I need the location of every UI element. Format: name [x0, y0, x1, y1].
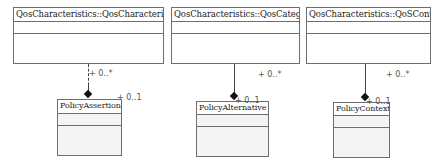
- multiplicity-label: + 0..*: [386, 70, 409, 79]
- class-policy-assertion[interactable]: PolicyAssertion: [57, 99, 122, 156]
- multiplicity-label: + 0..*: [89, 69, 112, 78]
- class-qos-category[interactable]: QosCharacteristics::QosCategory: [171, 7, 300, 64]
- class-name: QosCharacteristics::QosCategory: [172, 8, 299, 22]
- attributes-compartment: [334, 115, 389, 128]
- class-name: QosCharacteristics::QosCharacteristic: [14, 8, 163, 22]
- class-policy-alternative[interactable]: PolicyAlternative: [196, 101, 269, 157]
- attributes-compartment: [197, 114, 268, 127]
- attributes-compartment: [14, 21, 163, 34]
- attributes-compartment: [58, 113, 121, 126]
- class-qos-context[interactable]: QosCharacteristics::QoSContext: [306, 7, 431, 64]
- class-policy-context[interactable]: PolicyContext: [333, 102, 390, 158]
- attributes-compartment: [307, 21, 430, 34]
- class-qos-characteristic[interactable]: QosCharacteristics::QosCharacteristic: [13, 7, 164, 64]
- multiplicity-label: + 0..1: [235, 96, 260, 105]
- multiplicity-label: + 0..*: [258, 70, 281, 79]
- class-name: QosCharacteristics::QoSContext: [307, 8, 430, 22]
- multiplicity-label: + 0..1: [366, 97, 391, 106]
- class-name: PolicyAssertion: [58, 100, 121, 114]
- composition-diamond-icon: [84, 90, 92, 98]
- attributes-compartment: [172, 21, 299, 34]
- multiplicity-label: + 0..1: [117, 93, 142, 102]
